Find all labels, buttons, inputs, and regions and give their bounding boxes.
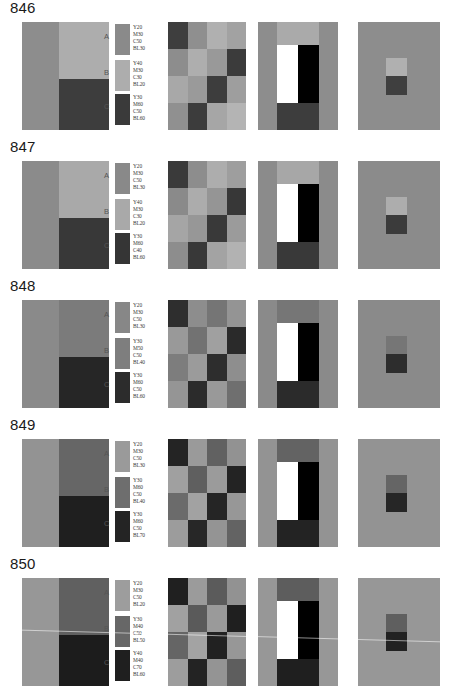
legend-key-label: A — [104, 310, 113, 319]
split-left-region — [22, 439, 59, 547]
grid-cell — [188, 49, 208, 76]
split-bottom-right-region — [59, 218, 109, 269]
bars-black-bar — [298, 323, 319, 383]
split-left-region — [22, 161, 59, 269]
ink-value: BL30 — [133, 184, 162, 191]
legend-key-label: A — [104, 449, 113, 458]
bars-top-band — [277, 22, 319, 45]
legend-entry: CY30M60C50BL60 — [104, 372, 162, 405]
ink-value: M60 — [133, 379, 162, 386]
grid-cell — [188, 354, 208, 381]
split-left-region — [22, 22, 59, 130]
grid-cell — [188, 215, 208, 242]
ink-value: C50 — [133, 630, 162, 637]
ink-value: BL50 — [133, 637, 162, 644]
ink-value: C50 — [133, 352, 162, 359]
ink-value: Y30 — [133, 233, 162, 240]
legend-color-swatch — [115, 199, 130, 230]
grid-cell — [227, 381, 247, 408]
legend-key-label: A — [104, 171, 113, 180]
ink-value: Y40 — [133, 199, 162, 206]
grid-cell — [168, 242, 188, 269]
split-left-region — [22, 578, 59, 686]
legend-key-label: C — [104, 102, 113, 111]
pair-lower-patch — [386, 215, 407, 234]
legend-entry: AY20M30C50BL30 — [104, 163, 162, 196]
legend-key-label: B — [104, 624, 113, 633]
pair-upper-patch — [386, 336, 407, 354]
legend-color-swatch — [115, 441, 130, 472]
legend-entry: AY20M30C50BL30 — [104, 302, 162, 335]
grid-cell — [168, 327, 188, 354]
ink-value: BL20 — [133, 81, 162, 88]
ink-value: BL60 — [133, 671, 162, 678]
grid-cell — [168, 188, 188, 215]
ink-value: BL40 — [133, 498, 162, 505]
ink-value: C50 — [133, 177, 162, 184]
grid-cell — [227, 103, 247, 130]
split-top-right-region — [59, 578, 109, 635]
grid-cell — [227, 49, 247, 76]
legend-ink-values: Y40M40C70BL60 — [133, 650, 162, 678]
legend-color-swatch — [115, 511, 130, 542]
ink-value: BL40 — [133, 359, 162, 366]
panel-checker-grid — [168, 439, 246, 547]
ink-value: M40 — [133, 657, 162, 664]
legend-color-swatch — [115, 60, 130, 91]
legend-ink-values: Y20M30C50BL30 — [133, 163, 162, 191]
ink-value: Y20 — [133, 163, 162, 170]
panel-checker-grid — [168, 578, 246, 686]
grid-cell — [227, 493, 247, 520]
row-number: 846 — [10, 0, 36, 15]
ink-value: C50 — [133, 386, 162, 393]
ink-value: C30 — [133, 74, 162, 81]
ink-value: Y20 — [133, 24, 162, 31]
grid-cell — [188, 242, 208, 269]
grid-cell — [188, 632, 208, 659]
ink-value: M30 — [133, 309, 162, 316]
legend-entry: BY30M50C50BL40 — [104, 338, 162, 371]
grid-cell — [188, 466, 208, 493]
test-chart-page: 846AY20M30C50BL30BY40M30C30BL20CY30M60C5… — [0, 0, 455, 694]
legend: AY20M30C50BL30BY40M30C30BL20CY30M60C50BL… — [104, 22, 162, 130]
pair-upper-patch — [386, 197, 407, 215]
grid-cell — [207, 49, 227, 76]
legend-ink-values: Y30M60C50BL70 — [133, 511, 162, 539]
ink-value: C50 — [133, 455, 162, 462]
grid-cell — [227, 161, 247, 188]
grid-cell — [188, 76, 208, 103]
panel-split-field — [22, 22, 109, 130]
ink-value: M50 — [133, 345, 162, 352]
ink-value: Y30 — [133, 511, 162, 518]
plate-row: 847AY20M30C50BL30BY40M30C30BL20CY30M60C4… — [0, 139, 455, 278]
bars-white-bar — [277, 323, 298, 381]
legend-color-swatch — [115, 372, 130, 403]
grid-cell — [227, 659, 247, 686]
grid-cell — [207, 439, 227, 466]
ink-value: BL60 — [133, 393, 162, 400]
ink-value: M60 — [133, 101, 162, 108]
legend-key-label: A — [104, 588, 113, 597]
ink-value: Y30 — [133, 477, 162, 484]
split-left-region — [22, 300, 59, 408]
grid-cell — [207, 520, 227, 547]
legend: AY20M30C50BL20BY30M40C50BL50CY40M40C70BL… — [104, 578, 162, 686]
grid-cell — [188, 22, 208, 49]
panel-split-field — [22, 300, 109, 408]
grid-cell — [168, 439, 188, 466]
ink-value: Y20 — [133, 302, 162, 309]
grid-cell — [188, 578, 208, 605]
grid-cell — [227, 188, 247, 215]
legend-ink-values: Y30M40C50BL50 — [133, 616, 162, 644]
grid-cell — [168, 381, 188, 408]
ink-value: M30 — [133, 448, 162, 455]
row-number: 848 — [10, 278, 36, 293]
legend-ink-values: Y20M30C50BL20 — [133, 580, 162, 608]
pair-lower-patch — [386, 354, 407, 373]
grid-cell — [168, 215, 188, 242]
grid-cell — [168, 49, 188, 76]
ink-value: BL30 — [133, 45, 162, 52]
grid-cell — [207, 242, 227, 269]
panel-split-field — [22, 439, 109, 547]
row-number: 847 — [10, 139, 36, 154]
